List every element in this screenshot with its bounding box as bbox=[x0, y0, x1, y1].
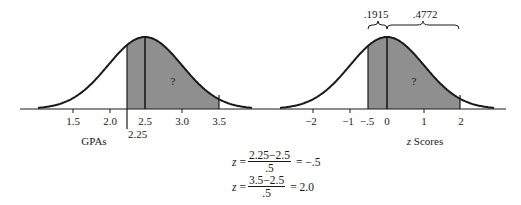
equation-lower-fraction: 2.25−2.5 .5 bbox=[248, 149, 291, 174]
left-tick-2.0: 2.0 bbox=[103, 115, 117, 127]
brace-left-icon bbox=[368, 21, 387, 29]
left-tick-3.5: 3.5 bbox=[212, 115, 226, 127]
equation-upper-lhs: z bbox=[232, 181, 236, 193]
right-x-axis-label-rest: Scores bbox=[411, 135, 443, 147]
equation-lower-equals: = bbox=[239, 156, 246, 168]
brace-right-icon bbox=[387, 21, 459, 29]
equation-upper-denominator: .5 bbox=[262, 187, 271, 199]
equation-lower-lhs: z bbox=[232, 156, 236, 168]
right-tick-1: 1 bbox=[421, 115, 427, 127]
brace-right-label: .4772 bbox=[413, 8, 438, 20]
left-normal-curve-chart: 1.5 2.0 2.5 3.0 3.5 2.25 GPAs ? bbox=[20, 37, 262, 147]
left-x-axis-label: GPAs bbox=[81, 135, 106, 147]
right-tick-2: 2 bbox=[458, 115, 464, 127]
equation-lower-numerator: 2.25−2.5 bbox=[248, 149, 291, 162]
right-x-axis-label: z Scores bbox=[406, 135, 443, 147]
right-unknown-area-label: ? bbox=[412, 75, 417, 87]
equation-z-lower: z= 2.25−2.5 .5 = −.5 bbox=[232, 149, 320, 174]
equation-lower-result: = −.5 bbox=[296, 156, 320, 168]
left-tick-2.5: 2.5 bbox=[138, 115, 152, 127]
right-tick-neg-0.5: −.5 bbox=[360, 115, 375, 127]
left-cut-label: 2.25 bbox=[128, 128, 148, 140]
equation-upper-result: = 2.0 bbox=[290, 181, 314, 193]
right-normal-curve-chart: −2 −1 −.5 0 1 2 z Scores ? .1915 .4772 bbox=[262, 8, 506, 147]
equation-lower-denominator: .5 bbox=[265, 162, 274, 174]
left-unknown-area-label: ? bbox=[171, 75, 176, 87]
equation-z-upper: z= 3.5−2.5 .5 = 2.0 bbox=[232, 174, 314, 199]
right-shaded-area bbox=[368, 37, 460, 109]
equation-upper-numerator: 3.5−2.5 bbox=[248, 174, 285, 187]
equation-upper-equals: = bbox=[239, 181, 246, 193]
left-tick-3.0: 3.0 bbox=[175, 115, 189, 127]
left-tick-1.5: 1.5 bbox=[66, 115, 80, 127]
right-tick-neg-2: −2 bbox=[305, 115, 317, 127]
left-shaded-area bbox=[127, 37, 219, 109]
right-tick-neg-1: −1 bbox=[342, 115, 354, 127]
right-tick-0: 0 bbox=[384, 115, 390, 127]
equation-upper-fraction: 3.5−2.5 .5 bbox=[248, 174, 285, 199]
brace-left-label: .1915 bbox=[364, 8, 389, 20]
